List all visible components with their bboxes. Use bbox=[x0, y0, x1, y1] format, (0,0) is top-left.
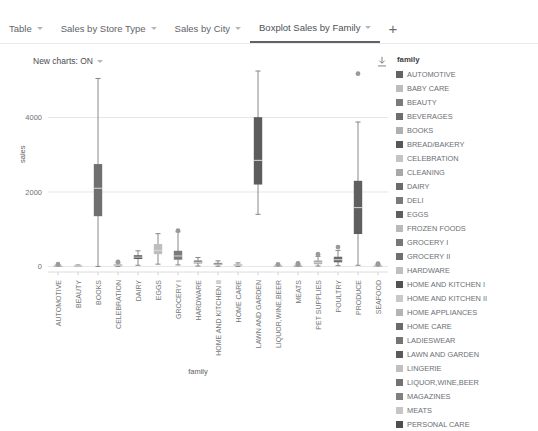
legend-item[interactable]: MEATS bbox=[396, 403, 538, 417]
legend-label: MAGAZINES bbox=[407, 392, 451, 401]
legend-item[interactable]: BEAUTY bbox=[396, 95, 538, 109]
box-group[interactable] bbox=[374, 261, 382, 266]
box-group[interactable] bbox=[354, 71, 362, 265]
legend-label: BEAUTY bbox=[407, 98, 437, 107]
tab-table[interactable]: Table bbox=[0, 14, 52, 43]
legend-item[interactable]: HOME AND KITCHEN II bbox=[396, 291, 538, 305]
box-group[interactable] bbox=[154, 234, 162, 265]
legend-item[interactable]: DAIRY bbox=[396, 179, 538, 193]
box-group[interactable] bbox=[334, 245, 342, 266]
outlier-point[interactable] bbox=[336, 245, 341, 250]
outlier-point[interactable] bbox=[276, 262, 281, 267]
outlier-point[interactable] bbox=[356, 71, 361, 76]
legend-swatch bbox=[396, 393, 403, 400]
legend-label: HARDWARE bbox=[407, 266, 450, 275]
legend-item[interactable]: HARDWARE bbox=[396, 263, 538, 277]
legend-label: BOOKS bbox=[407, 126, 433, 135]
box-group[interactable] bbox=[314, 252, 322, 266]
box-group[interactable] bbox=[114, 260, 122, 267]
legend-label: HOME AND KITCHEN I bbox=[407, 280, 485, 289]
x-tick-label: MEATS bbox=[295, 280, 302, 304]
chevron-down-icon[interactable] bbox=[37, 27, 43, 30]
legend-item[interactable]: LADIESWEAR bbox=[396, 333, 538, 347]
add-tab-button[interactable]: + bbox=[380, 21, 405, 36]
legend-item[interactable]: LIQUOR,WINE,BEER bbox=[396, 375, 538, 389]
legend-item[interactable]: BREAD/BAKERY bbox=[396, 137, 538, 151]
legend-swatch bbox=[396, 421, 403, 428]
x-tick-label: EGGS bbox=[155, 280, 162, 301]
box-rect[interactable] bbox=[174, 251, 182, 260]
y-tick-label: 0 bbox=[38, 262, 42, 271]
legend-item[interactable]: CLEANING bbox=[396, 165, 538, 179]
box-group[interactable] bbox=[194, 257, 202, 266]
chevron-down-icon[interactable] bbox=[235, 27, 241, 30]
legend-swatch bbox=[396, 211, 403, 218]
box-group[interactable] bbox=[174, 228, 182, 265]
legend-item[interactable]: EGGS bbox=[396, 207, 538, 221]
chevron-down-icon[interactable] bbox=[151, 27, 157, 30]
box-group[interactable] bbox=[234, 263, 242, 267]
tab-sales-by-city[interactable]: Sales by City bbox=[166, 14, 250, 43]
legend-item[interactable]: CELEBRATION bbox=[396, 151, 538, 165]
box-group[interactable] bbox=[214, 261, 222, 266]
outlier-point[interactable] bbox=[56, 262, 61, 267]
legend-swatch bbox=[396, 239, 403, 246]
legend-item[interactable]: LAWN AND GARDEN bbox=[396, 347, 538, 361]
outlier-point[interactable] bbox=[376, 261, 381, 266]
legend-label: PERSONAL CARE bbox=[407, 420, 470, 429]
x-tick-label: BEAUTY bbox=[75, 280, 82, 308]
x-tick-label: HOME AND KITCHEN II bbox=[215, 280, 222, 356]
legend-label: BREAD/BAKERY bbox=[407, 140, 464, 149]
legend-item[interactable]: HOME AND KITCHEN I bbox=[396, 277, 538, 291]
legend-item[interactable]: MAGAZINES bbox=[396, 389, 538, 403]
legend-item[interactable]: GROCERY I bbox=[396, 235, 538, 249]
y-axis-title: sales bbox=[18, 145, 27, 163]
legend-item[interactable]: LINGERIE bbox=[396, 361, 538, 375]
legend-item[interactable]: AUTOMOTIVE bbox=[396, 67, 538, 81]
legend-item[interactable]: DELI bbox=[396, 193, 538, 207]
box-group[interactable] bbox=[254, 71, 262, 214]
outlier-point[interactable] bbox=[316, 252, 321, 257]
tab-label: Boxplot Sales by Family bbox=[259, 22, 360, 33]
legend-swatch bbox=[396, 183, 403, 190]
outlier-point[interactable] bbox=[176, 228, 181, 233]
box-group[interactable] bbox=[274, 262, 282, 267]
legend-swatch bbox=[396, 253, 403, 260]
box-group[interactable] bbox=[94, 78, 102, 266]
legend-item[interactable]: BABY CARE bbox=[396, 81, 538, 95]
box-rect[interactable] bbox=[154, 244, 162, 254]
tab-label: Sales by Store Type bbox=[61, 23, 146, 34]
box-group[interactable] bbox=[294, 261, 302, 267]
legend-item[interactable]: PERSONAL CARE bbox=[396, 417, 538, 431]
legend-swatch bbox=[396, 169, 403, 176]
legend-label: FROZEN FOODS bbox=[407, 224, 466, 233]
legend-swatch bbox=[396, 225, 403, 232]
legend-label: EGGS bbox=[407, 210, 428, 219]
legend-label: BABY CARE bbox=[407, 84, 449, 93]
plot-area[interactable]: 020004000AUTOMOTIVEBEAUTYBOOKSCELEBRATIO… bbox=[0, 44, 395, 397]
legend-swatch bbox=[396, 407, 403, 414]
legend-label: DELI bbox=[407, 196, 423, 205]
legend-item[interactable]: BOOKS bbox=[396, 123, 538, 137]
legend-item[interactable]: BEVERAGES bbox=[396, 109, 538, 123]
outlier-point[interactable] bbox=[116, 260, 121, 265]
y-tick-label: 4000 bbox=[25, 113, 42, 122]
outlier-point[interactable] bbox=[296, 261, 301, 266]
legend-label: LAWN AND GARDEN bbox=[407, 350, 479, 359]
box-rect[interactable] bbox=[254, 117, 262, 184]
box-group[interactable] bbox=[54, 262, 62, 267]
legend-item[interactable]: HOME APPLIANCES bbox=[396, 305, 538, 319]
tab-boxplot-sales-by-family[interactable]: Boxplot Sales by Family bbox=[250, 14, 380, 43]
legend-item[interactable]: FROZEN FOODS bbox=[396, 221, 538, 235]
box-group[interactable] bbox=[74, 265, 82, 267]
x-tick-label: HOME CARE bbox=[235, 280, 242, 323]
tab-bar: Table Sales by Store Type Sales by City … bbox=[0, 14, 538, 44]
box-rect[interactable] bbox=[94, 164, 102, 216]
legend-label: CLEANING bbox=[407, 168, 445, 177]
legend-item[interactable]: GROCERY II bbox=[396, 249, 538, 263]
chevron-down-icon[interactable] bbox=[365, 26, 371, 29]
box-group[interactable] bbox=[134, 251, 142, 266]
legend-item[interactable]: HOME CARE bbox=[396, 319, 538, 333]
tab-sales-by-store-type[interactable]: Sales by Store Type bbox=[52, 14, 166, 43]
legend: family AUTOMOTIVEBABY CAREBEAUTYBEVERAGE… bbox=[396, 55, 538, 431]
